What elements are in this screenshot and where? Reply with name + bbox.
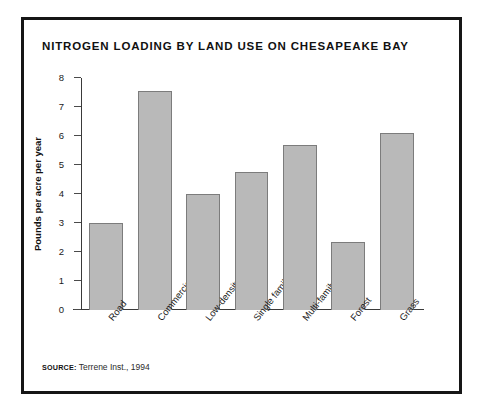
bar-group: Grass xyxy=(380,78,414,310)
bar xyxy=(380,133,414,310)
chart-frame: NITROGEN LOADING BY LAND USE ON CHESAPEA… xyxy=(21,17,462,394)
y-tick: 3 xyxy=(74,222,81,223)
bar-group: Low-density xyxy=(186,78,220,310)
y-tick: 1 xyxy=(74,280,81,281)
y-tick: 6 xyxy=(74,135,81,136)
y-tick-label: 1 xyxy=(59,275,64,286)
y-tick-label: 5 xyxy=(59,159,64,170)
y-tick: 8 xyxy=(74,77,81,78)
y-tick: 0 xyxy=(74,309,81,310)
y-tick-label: 2 xyxy=(59,246,64,257)
bar xyxy=(89,223,123,310)
y-tick-label: 6 xyxy=(59,130,64,141)
bar-group: Road xyxy=(89,78,123,310)
y-tick: 5 xyxy=(74,164,81,165)
bar-series: RoadCommercialLow-densitySingle familyMu… xyxy=(82,78,421,310)
y-tick-label: 0 xyxy=(59,304,64,315)
source-label: SOURCE: xyxy=(42,363,77,372)
bar xyxy=(138,91,172,310)
y-axis-label: Pounds per acre per year xyxy=(32,137,43,251)
bar xyxy=(235,172,269,310)
y-tick-label: 3 xyxy=(59,217,64,228)
chart-title: NITROGEN LOADING BY LAND USE ON CHESAPEA… xyxy=(42,40,409,52)
source-text: Terrene Inst., 1994 xyxy=(79,362,150,372)
y-tick: 2 xyxy=(74,251,81,252)
plot-area: Pounds per acre per year 012345678 RoadC… xyxy=(81,78,421,310)
bar-group: Forest xyxy=(331,78,365,310)
y-tick: 4 xyxy=(74,193,81,194)
y-tick-label: 8 xyxy=(59,72,64,83)
bar xyxy=(283,145,317,310)
bar-group: Commercial xyxy=(138,78,172,310)
y-tick: 7 xyxy=(74,106,81,107)
bar-group: Single family xyxy=(235,78,269,310)
y-tick-label: 4 xyxy=(59,188,64,199)
bar xyxy=(186,194,220,310)
source-note: SOURCE: Terrene Inst., 1994 xyxy=(42,362,150,372)
y-tick-label: 7 xyxy=(59,101,64,112)
bar-group: Multi-family xyxy=(283,78,317,310)
